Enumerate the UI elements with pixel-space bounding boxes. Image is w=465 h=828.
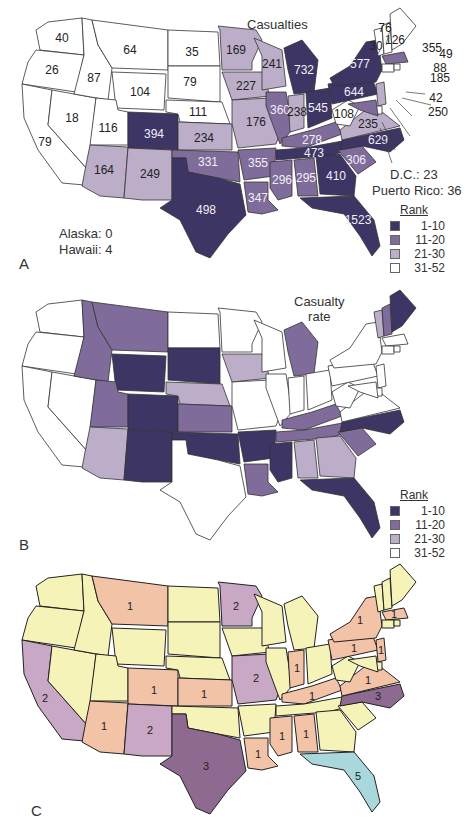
state-value-mt: 64 xyxy=(123,43,137,57)
state-value-wy: 104 xyxy=(130,85,150,99)
state-nj xyxy=(376,364,386,388)
state-value-nd: 35 xyxy=(185,45,199,59)
state-count-va: 1 xyxy=(365,674,371,686)
state-count-nj: 1 xyxy=(378,644,384,656)
state-value-ar: 355 xyxy=(248,156,268,170)
legend-item-21-30: 21-30 xyxy=(390,247,445,261)
state-wy xyxy=(112,628,166,666)
legend-item-11-20: 11-20 xyxy=(390,233,445,247)
note-hawaii: Hawaii: 4 xyxy=(59,242,112,258)
state-value-nc: 629 xyxy=(368,133,388,147)
state-count-mn: 2 xyxy=(233,600,239,612)
state-nm xyxy=(124,430,172,482)
state-value-md: 250 xyxy=(428,105,448,119)
state-value-ut: 116 xyxy=(98,121,117,135)
legend-rank: Rank 1-10 11-20 21-30 31-52 xyxy=(390,488,445,560)
state-value-wi: 241 xyxy=(262,57,282,71)
state-fl xyxy=(300,752,380,812)
state-count-pa: 1 xyxy=(351,642,357,654)
state-count-in: 1 xyxy=(294,662,300,674)
state-count-nc: 3 xyxy=(375,690,381,702)
state-count-ca: 2 xyxy=(42,692,48,704)
state-value-me: 126 xyxy=(385,33,405,47)
state-value-sc: 306 xyxy=(346,153,366,167)
state-value-ne: 111 xyxy=(189,105,208,119)
state-nd xyxy=(168,312,220,348)
state-me xyxy=(390,564,416,606)
state-wa xyxy=(36,574,84,611)
swatch-icon xyxy=(390,221,400,231)
state-value-tn: 473 xyxy=(304,146,324,160)
panel-letter-a: A xyxy=(19,255,29,272)
state-sd xyxy=(168,348,220,384)
state-az xyxy=(82,427,128,480)
state-count-la: 1 xyxy=(255,748,261,760)
legend-item-21-30: 21-30 xyxy=(390,532,445,546)
state-mn xyxy=(218,582,262,626)
state-in xyxy=(288,376,304,414)
state-value-ks: 234 xyxy=(194,131,214,145)
state-value-nm: 249 xyxy=(140,167,160,181)
note-alaska: Alaska: 0 xyxy=(59,226,112,242)
state-value-va: 235 xyxy=(358,117,378,131)
state-value-ky: 278 xyxy=(302,133,322,147)
state-value-co: 394 xyxy=(144,127,164,141)
state-value-de: 42 xyxy=(429,91,443,105)
state-count-az: 1 xyxy=(101,720,107,732)
legend-item-31-52: 31-52 xyxy=(390,261,445,275)
state-value-mi: 732 xyxy=(294,63,314,77)
state-count-ms: 1 xyxy=(279,730,285,742)
swatch-icon xyxy=(390,520,400,530)
state-nj xyxy=(376,82,386,106)
map-title: Casualties xyxy=(247,17,308,32)
state-value-oh: 545 xyxy=(308,101,328,115)
state-value-or: 26 xyxy=(45,63,59,77)
swatch-icon xyxy=(390,534,400,544)
map-panel-c: 111122322111113111511 C xyxy=(0,552,465,828)
state-fl xyxy=(300,478,380,538)
state-ct xyxy=(382,346,394,354)
state-count-ny: 1 xyxy=(357,614,363,626)
state-co xyxy=(128,394,178,432)
state-al xyxy=(294,440,318,478)
state-ny xyxy=(330,322,382,368)
state-count-map: 111122322111113111511 xyxy=(0,552,465,828)
note-puerto-rico: Puerto Rico: 36 xyxy=(372,183,462,199)
legend-item-1-10: 1-10 xyxy=(390,219,445,233)
state-count-fl: 5 xyxy=(355,770,361,782)
state-count-tx: 3 xyxy=(203,760,209,772)
state-value-ms: 296 xyxy=(272,173,292,187)
state-count-al: 1 xyxy=(303,728,309,740)
map-panel-casualty-rate: Casualty rate Rank 1-10 11-20 21-30 31-5… xyxy=(0,282,465,550)
state-value-ny: 577 xyxy=(350,57,370,71)
note-dc: D.C.: 23 xyxy=(390,167,438,183)
state-value-in: 238 xyxy=(287,105,307,119)
state-value-mn: 169 xyxy=(226,43,246,57)
state-value-ca: 79 xyxy=(38,135,52,149)
state-wa xyxy=(36,300,84,337)
state-value-ia: 227 xyxy=(236,79,256,93)
state-value-fl: 1523 xyxy=(345,213,372,227)
state-oh xyxy=(306,644,332,684)
state-ct xyxy=(382,64,394,72)
state-ri xyxy=(394,64,400,70)
legend-rank: Rank 1-10 11-20 21-30 31-52 xyxy=(390,203,445,275)
state-sd xyxy=(168,622,220,658)
map-panel-casualties: 4026798718641041161643942493579111234331… xyxy=(0,0,465,280)
state-ms xyxy=(270,442,292,482)
state-value-vt: 30 xyxy=(369,39,383,53)
state-ri xyxy=(394,620,400,626)
swatch-icon xyxy=(390,506,400,516)
state-ks xyxy=(178,404,232,432)
state-mi xyxy=(284,596,318,650)
swatch-icon xyxy=(390,263,400,273)
state-value-tx: 498 xyxy=(196,203,216,217)
map-title: Casualty rate xyxy=(294,294,345,324)
state-value-wv: 108 xyxy=(334,107,354,121)
state-count-ma: 1 xyxy=(391,608,397,620)
state-value-wa: 40 xyxy=(55,31,69,45)
state-value-nv: 18 xyxy=(65,111,79,125)
swatch-icon xyxy=(390,249,400,259)
state-value-al: 295 xyxy=(296,171,316,185)
state-count-mo: 2 xyxy=(253,672,259,684)
